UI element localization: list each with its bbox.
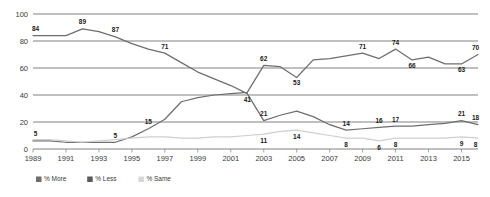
data-label: 84	[32, 25, 40, 32]
y-tick-label: 80	[20, 37, 28, 46]
data-label: 71	[359, 43, 367, 50]
legend-label: % Same	[146, 175, 171, 182]
x-tick-label: 1995	[124, 154, 141, 163]
y-tick-label: 0	[24, 145, 28, 154]
data-label: 53	[293, 79, 301, 86]
x-tick-label: 1991	[58, 154, 75, 163]
data-label: 70	[472, 44, 480, 51]
x-tick-label: 1989	[25, 154, 42, 163]
y-tick-label: 20	[20, 118, 28, 127]
x-tick-label: 1993	[91, 154, 108, 163]
data-label: 14	[293, 133, 301, 140]
data-label: 17	[392, 116, 400, 123]
y-tick-label: 40	[20, 91, 28, 100]
x-tick-label: 1999	[189, 154, 206, 163]
data-label: 9	[460, 140, 464, 147]
x-tick-label: 2015	[453, 154, 470, 163]
data-label: 74	[392, 39, 400, 46]
data-label: 16	[375, 117, 383, 124]
x-tick-label: 2013	[420, 154, 437, 163]
x-tick-label: 2001	[222, 154, 239, 163]
chart-legend: % More% Less% Same	[36, 175, 171, 182]
x-tick-label: 2011	[388, 154, 404, 163]
gridlines	[33, 14, 478, 149]
data-label: 15	[145, 118, 153, 125]
legend-label: % Less	[95, 175, 117, 182]
data-label: 89	[79, 18, 87, 25]
data-label: 18	[472, 114, 480, 121]
data-label: 8	[394, 141, 398, 148]
data-label: 66	[408, 62, 416, 69]
x-tick-label: 2009	[354, 154, 371, 163]
data-series	[33, 29, 478, 142]
x-tick-label: 2007	[321, 154, 338, 163]
data-labels: 8489877141211416172118551562537174666370…	[32, 18, 480, 151]
data-label: 6	[377, 144, 381, 151]
data-label: 41	[244, 96, 252, 103]
data-label: 62	[260, 55, 268, 62]
data-label: 21	[458, 110, 466, 117]
x-tick-label: 1997	[157, 154, 174, 163]
data-label: 87	[112, 26, 120, 33]
y-axis-ticks: 020406080100	[15, 10, 28, 154]
series-line-same	[33, 130, 478, 142]
x-tick-label: 2003	[255, 154, 272, 163]
line-chart: 020406080100 198919911993199519971999200…	[0, 0, 490, 197]
data-label: 5	[114, 132, 118, 139]
data-label: 5	[34, 130, 38, 137]
data-label: 11	[260, 137, 267, 144]
data-label: 63	[458, 66, 466, 73]
data-label: 71	[161, 43, 169, 50]
y-tick-label: 100	[15, 10, 28, 19]
legend-swatch	[36, 177, 42, 183]
legend-swatch	[87, 177, 93, 183]
legend-swatch	[138, 177, 144, 183]
data-label: 8	[474, 141, 478, 148]
data-label: 21	[260, 110, 268, 117]
legend-label: % More	[44, 175, 67, 182]
x-axis-ticks: 1989199119931995199719992001200320052007…	[25, 149, 470, 163]
x-tick-label: 2005	[288, 154, 305, 163]
y-tick-label: 60	[20, 64, 28, 73]
data-label: 14	[343, 120, 351, 127]
data-label: 8	[344, 141, 348, 148]
chart-canvas: 020406080100 198919911993199519971999200…	[0, 0, 490, 197]
